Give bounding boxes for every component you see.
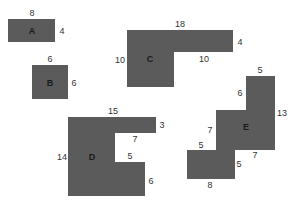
shape-e-dimension-label: 7: [207, 126, 212, 135]
shape-b-dimension-label: 6: [71, 79, 76, 88]
shape-c-label: C: [147, 55, 154, 64]
shape-c-dimension-label: 18: [175, 20, 185, 29]
shape-a-label: A: [29, 27, 36, 36]
shapes-canvas: [0, 0, 298, 202]
shape-e-dimension-label: 8: [207, 181, 212, 190]
shape-c-dimension-label: 4: [237, 38, 242, 47]
shape-a-dimension-label: 8: [29, 9, 34, 18]
shape-e-dimension-label: 13: [277, 109, 287, 118]
shape-a-dimension-label: 4: [59, 27, 64, 36]
shape-e-dimension-label: 7: [252, 151, 257, 160]
shape-d-dimension-label: 6: [148, 177, 153, 186]
shape-e-dimension-label: 6: [237, 89, 242, 98]
shape-d-dimension-label: 7: [132, 135, 137, 144]
shape-d: [68, 117, 156, 196]
shape-d-dimension-label: 3: [159, 121, 164, 130]
shape-d-dimension-label: 15: [108, 107, 118, 116]
shape-e-dimension-label: 5: [257, 66, 262, 75]
shape-e-dimension-label: 5: [236, 160, 241, 169]
shape-e: [187, 76, 275, 179]
shape-d-dimension-label: 5: [127, 152, 132, 161]
shape-d-dimension-label: 14: [57, 153, 67, 162]
shape-d-label: D: [89, 153, 96, 162]
shape-e-dimension-label: 5: [198, 141, 203, 150]
shape-b-dimension-label: 6: [47, 55, 52, 64]
shape-c-dimension-label: 10: [199, 55, 209, 64]
rectilinear-shapes-diagram: A84B66C1841010D15371456E561375758: [0, 0, 298, 202]
shape-e-label: E: [243, 123, 249, 132]
shape-c: [127, 30, 233, 87]
shape-c-dimension-label: 10: [115, 56, 125, 65]
shape-b-label: B: [47, 79, 54, 88]
